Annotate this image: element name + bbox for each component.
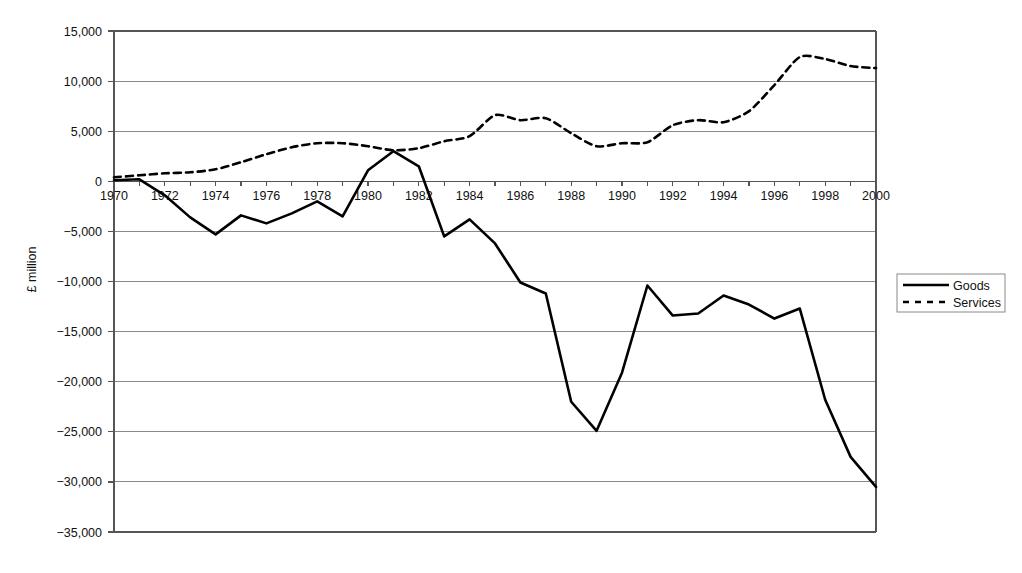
x-tick-label: 1986 <box>506 189 534 203</box>
x-tick-label: 1990 <box>608 189 636 203</box>
line-chart: 15,00010,0005,0000−5,000−10,000−15,000−2… <box>0 0 1022 573</box>
y-tick-label: −25,000 <box>56 425 102 439</box>
y-tick-label: −10,000 <box>56 275 102 289</box>
y-tick-label: −30,000 <box>56 475 102 489</box>
legend-label-services[interactable]: Services <box>953 296 1001 310</box>
x-tick-label: 1996 <box>760 189 788 203</box>
y-axis-tick-labels: 15,00010,0005,0000−5,000−10,000−15,000−2… <box>56 25 102 540</box>
x-tick-label: 1974 <box>202 189 230 203</box>
y-axis-label: £ million <box>25 247 39 293</box>
y-tick-label: 0 <box>95 175 102 189</box>
chart-canvas: 15,00010,0005,0000−5,000−10,000−15,000−2… <box>0 0 1022 573</box>
y-tick-label: −15,000 <box>56 325 102 339</box>
legend-label-goods[interactable]: Goods <box>953 279 990 293</box>
x-tick-label: 1998 <box>811 189 839 203</box>
x-tick-label: 2000 <box>862 189 890 203</box>
y-axis-title: £ million <box>25 247 39 293</box>
y-tick-label: 5,000 <box>71 125 102 139</box>
x-tick-label: 1992 <box>659 189 687 203</box>
y-tick-label: −35,000 <box>56 526 102 540</box>
x-tick-label: 1976 <box>252 189 280 203</box>
data-series <box>114 56 876 487</box>
x-tick-label: 1970 <box>100 189 128 203</box>
x-tick-label: 1988 <box>557 189 585 203</box>
chart-legend[interactable]: GoodsServices <box>897 274 1005 312</box>
x-tick-label: 1980 <box>354 189 382 203</box>
series-line-services <box>114 56 876 177</box>
y-tick-label: 10,000 <box>64 75 102 89</box>
y-tick-label: −5,000 <box>63 225 102 239</box>
y-tick-label: 15,000 <box>64 25 102 39</box>
y-tick-label: −20,000 <box>56 375 102 389</box>
x-tick-label: 1994 <box>710 189 738 203</box>
x-axis-tick-labels: 1970197219741976197819801982198419861988… <box>100 189 890 203</box>
x-tick-label: 1984 <box>456 189 484 203</box>
